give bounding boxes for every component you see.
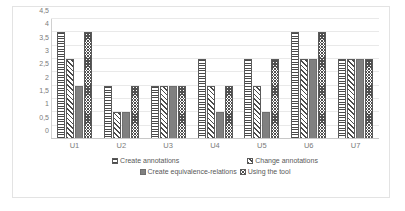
bar (198, 59, 206, 139)
y-axis-tick-label: 1,5 (39, 87, 49, 95)
legend-item[interactable]: Create annotations (112, 157, 179, 164)
bar (122, 112, 130, 139)
y-axis-tick-label: 2,5 (39, 60, 49, 68)
y-axis-tick-label: 2 (45, 74, 49, 82)
bar (66, 59, 74, 139)
legend-item-label: Using the tool (248, 168, 291, 175)
x-axis-tick-label: U3 (145, 141, 192, 150)
bar (160, 86, 168, 139)
y-axis-tick-label: 0 (45, 127, 49, 135)
bar (365, 59, 373, 139)
bar (75, 86, 83, 139)
bar (356, 59, 364, 139)
legend-swatch-checkerboard (240, 169, 246, 175)
bar-group (192, 19, 239, 139)
bar (347, 59, 355, 139)
bar (291, 32, 299, 139)
bar (104, 86, 112, 139)
bar (225, 86, 233, 139)
bar (113, 112, 121, 139)
bar (338, 59, 346, 139)
bar (131, 86, 139, 139)
bar (253, 86, 261, 139)
bar (271, 59, 279, 139)
chart-legend: Create annotationsChange annotations Cre… (51, 153, 379, 175)
legend-item[interactable]: Using the tool (240, 168, 291, 175)
bar (151, 86, 159, 139)
bar-group (145, 19, 192, 139)
bar-group (285, 19, 332, 139)
x-axis-tick-label: U7 (332, 141, 379, 150)
legend-swatch-diagonal-stripes (247, 158, 253, 164)
legend-item[interactable]: Change annotations (247, 157, 318, 164)
bar-groups (51, 19, 379, 139)
bar (169, 86, 177, 139)
chart-container: 00,511,522,533,544,5 U1U2U3U4U5U6U7 Crea… (12, 6, 390, 198)
legend-swatch-solid-gray (140, 169, 146, 175)
y-axis-tick-label: 3 (45, 47, 49, 55)
x-axis-tick-label: U4 (192, 141, 239, 150)
y-axis-tick-labels: 00,511,522,533,544,5 (27, 19, 49, 139)
bar (216, 112, 224, 139)
y-axis-tick-label: 4,5 (39, 7, 49, 15)
bar (309, 59, 317, 139)
x-axis-tick-label: U6 (285, 141, 332, 150)
legend-swatch-horizontal-stripes (112, 158, 118, 164)
bar-group (238, 19, 285, 139)
x-axis-tick-label: U5 (238, 141, 285, 150)
plot-area (51, 19, 379, 139)
x-axis-tick-label: U2 (98, 141, 145, 150)
legend-item-label: Create annotations (120, 157, 179, 164)
y-axis-tick-label: 0,5 (39, 114, 49, 122)
legend-row-2: Create equivalence-relationsUsing the to… (51, 168, 379, 175)
legend-item-label: Create equivalence-relations (148, 168, 237, 175)
bar-group (332, 19, 379, 139)
bar-group (51, 19, 98, 139)
bar-group (98, 19, 145, 139)
x-axis-line (51, 138, 379, 139)
legend-item[interactable]: Create equivalence-relations (140, 168, 237, 175)
y-axis-tick-label: 4 (45, 20, 49, 28)
bar (178, 86, 186, 139)
bar (84, 32, 92, 139)
bar (244, 59, 252, 139)
bar (318, 32, 326, 139)
bar (300, 59, 308, 139)
legend-row-1: Create annotationsChange annotations (51, 157, 379, 164)
bar (57, 32, 65, 139)
y-axis-tick-label: 3,5 (39, 34, 49, 42)
x-axis-tick-labels: U1U2U3U4U5U6U7 (51, 141, 379, 150)
bar (207, 86, 215, 139)
bar (262, 112, 270, 139)
legend-item-label: Change annotations (255, 157, 318, 164)
x-axis-tick-label: U1 (51, 141, 98, 150)
y-axis-tick-label: 1 (45, 100, 49, 108)
